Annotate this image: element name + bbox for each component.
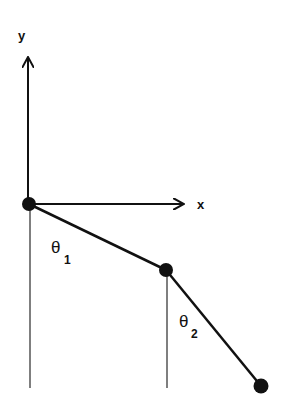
x-axis-label: x: [197, 197, 205, 212]
rod-1: [29, 204, 166, 270]
diagram-svg: y x θ 1 θ 2: [0, 0, 291, 416]
pivot-joint: [22, 197, 36, 211]
theta-1-subscript: 1: [64, 253, 71, 267]
theta-1-symbol: θ: [51, 238, 60, 257]
mass-1: [159, 263, 173, 277]
y-axis-label: y: [18, 28, 26, 43]
theta-2-subscript: 2: [191, 327, 198, 341]
double-pendulum-diagram: y x θ 1 θ 2: [0, 0, 291, 416]
mass-2: [254, 379, 269, 394]
theta-2-symbol: θ: [179, 312, 188, 331]
